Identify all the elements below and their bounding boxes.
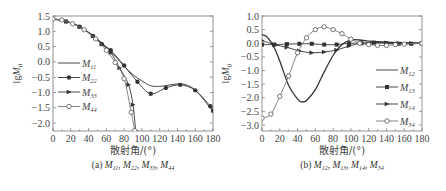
legend-label-m34: M34 (399, 116, 416, 128)
x-tick-label: 180 (415, 133, 430, 144)
marker-open-circle (313, 27, 317, 31)
marker-open-circle (260, 116, 264, 120)
x-tick-label: 40 (84, 133, 94, 144)
series-line-m11 (53, 19, 213, 111)
y-tick-label: −2.5 (241, 106, 259, 117)
legend-label-m14: M14 (399, 99, 416, 111)
x-tick-label: 120 (152, 133, 167, 144)
legend-label-m33: M33 (81, 87, 98, 99)
y-tick-label: −1.5 (241, 79, 259, 90)
x-tick-label: 120 (361, 133, 376, 144)
marker-open-circle (340, 32, 344, 36)
x-tick-label: 140 (170, 133, 185, 144)
x-tick-label: 80 (119, 133, 129, 144)
chart-caption: (b) M12, M13, M14, M34 (300, 160, 383, 171)
marker-filled-square (285, 42, 289, 46)
marker-open-circle (358, 41, 362, 45)
marker-open-circle (278, 94, 282, 98)
x-tick-label: 40 (293, 133, 303, 144)
marker-open-circle (385, 119, 389, 123)
x-tick-label: 60 (101, 133, 111, 144)
x-tick-label: 100 (343, 133, 358, 144)
y-tick-label: −2.0 (241, 92, 259, 103)
chart-a: 1.51.00.50.0−0.5−1.0−1.5−2.0020406080100… (11, 11, 221, 172)
marker-open-circle (104, 48, 108, 52)
marker-filled-circle (178, 83, 182, 87)
legend-label-m44: M44 (81, 101, 98, 113)
marker-open-circle (402, 42, 406, 46)
y-axis-label: lgMii (11, 63, 23, 83)
marker-open-circle (366, 42, 370, 46)
x-tick-label: 20 (66, 133, 76, 144)
y-tick-label: −1.0 (241, 65, 259, 76)
x-tick-label: 160 (188, 133, 203, 144)
marker-filled-circle (122, 63, 126, 67)
marker-open-circle (269, 112, 273, 116)
y-tick-label: −1.5 (32, 102, 50, 113)
series-line-m34 (262, 27, 422, 118)
y-tick-label: 0.0 (247, 38, 260, 49)
marker-open-circle (331, 27, 335, 31)
marker-open-circle (129, 110, 133, 114)
marker-filled-circle (149, 92, 153, 96)
legend-label-m11: M11 (81, 58, 96, 70)
y-tick-label: −0.5 (241, 51, 259, 62)
x-axis-label: 散射角/(°) (319, 144, 365, 156)
x-tick-label: 60 (310, 133, 320, 144)
marker-open-circle (420, 41, 424, 45)
marker-open-circle (82, 28, 86, 32)
marker-filled-square (322, 43, 326, 47)
marker-filled-circle (164, 86, 168, 90)
marker-open-circle (113, 60, 117, 64)
y-tick-label: 1.0 (38, 26, 51, 37)
y-tick-label: −1.0 (32, 87, 50, 98)
marker-filled-circle (211, 109, 215, 113)
y-tick-label: −0.5 (32, 72, 50, 83)
marker-filled-square (385, 85, 389, 89)
y-tick-label: 0.0 (38, 56, 51, 67)
marker-filled-square (335, 43, 339, 47)
marker-open-circle (51, 17, 55, 21)
marker-open-circle (93, 37, 97, 41)
marker-open-circle (322, 25, 326, 29)
x-tick-label: 20 (275, 133, 285, 144)
marker-filled-triangle (67, 90, 72, 95)
marker-open-circle (295, 51, 299, 55)
y-tick-label: −3.0 (241, 120, 259, 131)
marker-open-circle (60, 18, 64, 22)
marker-filled-circle (193, 88, 197, 92)
marker-filled-circle (208, 104, 212, 108)
x-tick-label: 140 (379, 133, 394, 144)
legend: M12M13M14M34 (376, 65, 416, 128)
marker-filled-circle (67, 75, 71, 79)
x-axis-label: 散射角/(°) (110, 144, 156, 156)
marker-open-circle (122, 77, 126, 81)
x-tick-label: 180 (206, 133, 221, 144)
marker-open-circle (286, 74, 290, 78)
marker-filled-triangle (385, 102, 390, 107)
legend-label-m13: M13 (399, 82, 416, 94)
marker-filled-square (260, 43, 264, 47)
marker-filled-circle (135, 80, 139, 84)
x-tick-label: 160 (397, 133, 412, 144)
marker-filled-square (310, 42, 314, 46)
y-tick-label: 1.0 (247, 11, 260, 22)
x-tick-label: 0 (260, 133, 265, 144)
series-line-m22 (53, 19, 213, 111)
marker-open-circle (304, 36, 308, 40)
y-tick-label: 0.5 (38, 41, 51, 52)
chart-b: 1.00.50.0−0.5−1.0−1.5−2.0−2.5−3.00204060… (220, 11, 430, 172)
marker-open-circle (349, 37, 353, 41)
x-tick-label: 0 (51, 133, 56, 144)
marker-open-circle (393, 42, 397, 46)
marker-filled-triangle (322, 50, 327, 55)
y-axis-label: lgMij (220, 63, 232, 83)
x-tick-label: 100 (134, 133, 149, 144)
chart-caption: (a) M11, M22, M33, M44 (92, 160, 174, 171)
legend: M11M22M33M44 (58, 58, 98, 114)
marker-filled-square (297, 42, 301, 46)
charts-canvas: 1.51.00.50.0−0.5−1.0−1.5−2.0020406080100… (0, 0, 446, 191)
marker-open-circle (384, 43, 388, 47)
y-tick-label: 0.5 (247, 24, 260, 35)
legend-label-m22: M22 (81, 72, 98, 84)
